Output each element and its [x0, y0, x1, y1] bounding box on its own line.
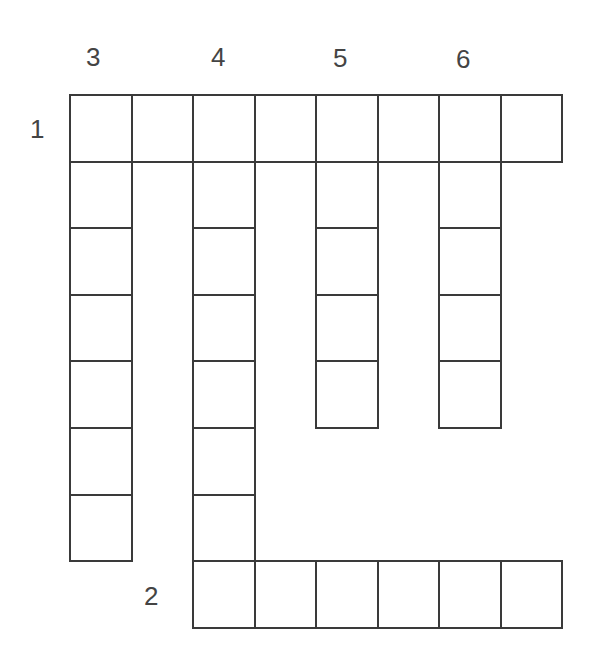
clue-number-3: 3 [86, 44, 100, 70]
grid-cell[interactable] [254, 560, 318, 629]
grid-cell[interactable] [192, 227, 256, 296]
grid-cell[interactable] [438, 560, 502, 629]
grid-cell[interactable] [315, 94, 379, 163]
clue-number-2: 2 [144, 583, 158, 609]
grid-cell[interactable] [192, 427, 256, 496]
grid-cell[interactable] [500, 560, 564, 629]
grid-cell[interactable] [315, 227, 379, 296]
grid-cell[interactable] [192, 161, 256, 230]
clue-number-4: 4 [211, 44, 225, 70]
grid-cell[interactable] [131, 94, 195, 163]
grid-cell[interactable] [438, 161, 502, 230]
clue-number-5: 5 [333, 45, 347, 71]
grid-cell[interactable] [315, 360, 379, 429]
grid-cell[interactable] [438, 294, 502, 363]
grid-cell[interactable] [192, 560, 256, 629]
grid-cell[interactable] [69, 227, 133, 296]
grid-cell[interactable] [192, 360, 256, 429]
grid-cell[interactable] [377, 94, 441, 163]
grid-cell[interactable] [69, 360, 133, 429]
clue-number-6: 6 [456, 46, 470, 72]
grid-cell[interactable] [192, 294, 256, 363]
grid-cell[interactable] [192, 94, 256, 163]
grid-cell[interactable] [69, 294, 133, 363]
grid-cell[interactable] [192, 494, 256, 563]
grid-cell[interactable] [500, 94, 564, 163]
grid-cell[interactable] [254, 94, 318, 163]
grid-cell[interactable] [315, 294, 379, 363]
grid-cell[interactable] [315, 560, 379, 629]
clue-number-1: 1 [30, 116, 44, 142]
grid-cell[interactable] [377, 560, 441, 629]
grid-cell[interactable] [69, 494, 133, 563]
grid-cell[interactable] [438, 227, 502, 296]
grid-cell[interactable] [315, 161, 379, 230]
grid-cell[interactable] [69, 427, 133, 496]
grid-cell[interactable] [438, 94, 502, 163]
grid-cell[interactable] [69, 94, 133, 163]
grid-cell[interactable] [69, 161, 133, 230]
grid-cell[interactable] [438, 360, 502, 429]
